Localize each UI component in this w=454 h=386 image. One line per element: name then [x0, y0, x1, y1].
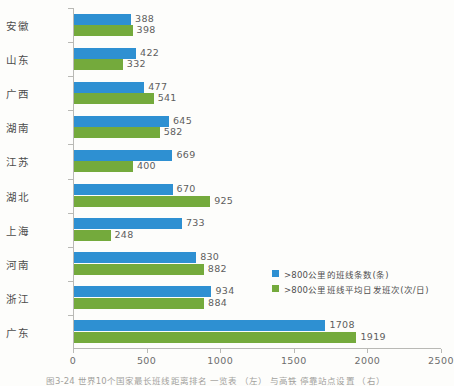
category-label: 安徽	[6, 18, 64, 33]
y-tick	[68, 110, 73, 111]
x-tick	[220, 349, 221, 353]
x-tick	[441, 349, 442, 353]
bar-value-label: 670	[177, 183, 196, 194]
x-tick-label: 1000	[207, 355, 233, 366]
x-tick-label: 2000	[355, 355, 381, 366]
bar-value-label: 925	[214, 195, 233, 206]
bar-value-label: 884	[208, 297, 227, 308]
bar	[74, 286, 211, 297]
bar-value-label: 422	[140, 47, 159, 58]
legend-item-green: >800公里班线平均日发班次(次/日)	[272, 281, 442, 296]
category-label: 上海	[6, 223, 64, 238]
chart-legend: >800公里的班线条数(条) >800公里班线平均日发班次(次/日)	[272, 266, 442, 296]
bar-value-label: 669	[176, 149, 195, 160]
bar	[74, 298, 204, 309]
category-label: 广西	[6, 86, 64, 101]
y-tick	[68, 213, 73, 214]
bar-value-label: 934	[215, 285, 234, 296]
bar-value-label: 248	[115, 229, 134, 240]
bar-value-label: 733	[186, 217, 205, 228]
legend-swatch-blue-icon	[272, 270, 279, 277]
bar-value-label: 332	[127, 58, 146, 69]
bar	[74, 25, 133, 36]
category-label: 河南	[6, 257, 64, 272]
x-tick	[147, 349, 148, 353]
x-tick-label: 500	[137, 355, 156, 366]
legend-label-green: >800公里班线平均日发班次(次/日)	[284, 283, 429, 295]
bar	[74, 116, 169, 127]
bar	[74, 230, 111, 241]
bar-value-label: 400	[137, 160, 156, 171]
y-tick	[68, 247, 73, 248]
bar	[74, 59, 123, 70]
x-axis-line	[73, 348, 441, 349]
bar	[74, 82, 144, 93]
bar	[74, 14, 131, 25]
y-tick	[68, 76, 73, 77]
x-tick-label: 2500	[428, 355, 454, 366]
bar-value-label: 882	[208, 263, 227, 274]
y-tick	[68, 42, 73, 43]
legend-label-blue: >800公里的班线条数(条)	[284, 268, 389, 280]
category-label: 湖北	[6, 189, 64, 204]
bar-value-label: 830	[200, 251, 219, 262]
bar	[74, 127, 160, 138]
bar-value-label: 645	[173, 115, 192, 126]
x-tick	[294, 349, 295, 353]
y-tick	[68, 144, 73, 145]
x-tick-label: 1500	[281, 355, 307, 366]
category-label: 广东	[6, 325, 64, 340]
bar	[74, 320, 325, 331]
bar	[74, 218, 182, 229]
bar	[74, 93, 154, 104]
bar	[74, 48, 136, 59]
x-tick	[367, 349, 368, 353]
figure-caption: 图3-24 世界10个国家最长班线距离排名 一览表 （左） 与高铁 停靠站点设置…	[46, 374, 444, 386]
bar	[74, 161, 133, 172]
legend-item-blue: >800公里的班线条数(条)	[272, 266, 442, 281]
bar	[74, 150, 172, 161]
legend-swatch-green-icon	[272, 285, 279, 292]
y-tick	[68, 179, 73, 180]
bar	[74, 264, 204, 275]
y-tick	[68, 315, 73, 316]
bar	[74, 196, 210, 207]
bar-value-label: 388	[135, 13, 154, 24]
category-label: 山东	[6, 52, 64, 67]
category-label: 浙江	[6, 291, 64, 306]
bar-value-label: 1708	[329, 319, 354, 330]
bar	[74, 332, 356, 343]
bar-value-label: 398	[137, 24, 156, 35]
bar-value-label: 1919	[360, 331, 385, 342]
bar-value-label: 477	[148, 81, 167, 92]
y-tick	[68, 281, 73, 282]
bar	[74, 184, 173, 195]
bar-value-label: 582	[164, 126, 183, 137]
bar-value-label: 541	[158, 92, 177, 103]
category-label: 湖南	[6, 120, 64, 135]
category-label: 江苏	[6, 154, 64, 169]
y-tick	[68, 8, 73, 9]
x-tick-label: 0	[70, 355, 76, 366]
bar	[74, 252, 196, 263]
x-tick	[73, 349, 74, 353]
